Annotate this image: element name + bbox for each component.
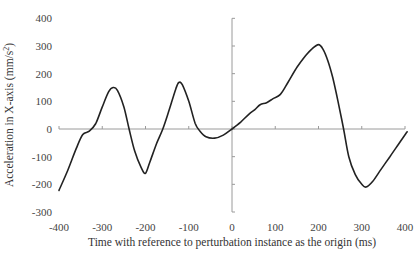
y-tick-label: 0 xyxy=(47,123,53,135)
y-tick-label: 100 xyxy=(36,95,53,107)
x-tick-label: -400 xyxy=(49,221,70,233)
y-tick-label: 300 xyxy=(36,40,53,52)
x-tick-label: -100 xyxy=(179,221,200,233)
y-tick-labels: 4003002001000-100-200-300 xyxy=(32,12,53,218)
y-tick-label: -300 xyxy=(32,206,53,218)
x-tick-label: -300 xyxy=(92,221,113,233)
x-tick-label: 100 xyxy=(267,221,284,233)
x-tick-label: -200 xyxy=(135,221,156,233)
x-tick-labels: -400-300-200-1000100200300400 xyxy=(49,221,414,233)
line-chart: -400-300-200-1000100200300400 4003002001… xyxy=(0,0,419,266)
x-axis-title: Time with reference to perturbation inst… xyxy=(88,236,376,249)
y-tick-label: -200 xyxy=(32,178,53,190)
y-tick-label: 400 xyxy=(36,12,53,24)
y-tick-label: 200 xyxy=(36,68,53,80)
y-axis xyxy=(232,18,235,212)
y-axis-title: Acceleration in X-axis (mm/s2) xyxy=(2,43,16,187)
y-tick-label: -100 xyxy=(32,151,53,163)
acceleration-series-line xyxy=(59,45,407,191)
x-tick-label: 400 xyxy=(397,221,414,233)
x-tick-label: 300 xyxy=(354,221,371,233)
x-tick-label: 0 xyxy=(229,221,235,233)
x-tick-label: 200 xyxy=(310,221,327,233)
